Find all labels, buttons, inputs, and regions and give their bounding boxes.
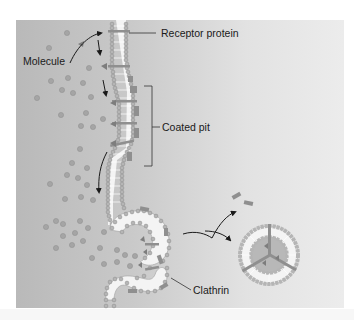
released-clathrin xyxy=(232,192,254,206)
arrows xyxy=(70,33,235,240)
molecule-label: Molecule xyxy=(23,55,65,67)
endocytosis-diagram xyxy=(0,0,354,320)
receptor-protein-label: Receptor protein xyxy=(161,27,239,39)
coated-pit-label: Coated pit xyxy=(162,121,210,133)
coated-vesicle xyxy=(240,224,298,284)
clathrin-label: Clathrin xyxy=(193,284,229,296)
